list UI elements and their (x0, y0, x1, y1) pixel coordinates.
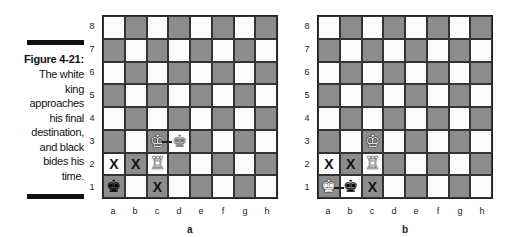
square-f7 (212, 39, 234, 62)
square-a8 (103, 16, 125, 39)
square-f4 (427, 107, 449, 130)
square-e1 (405, 175, 427, 198)
file-label: f (427, 206, 449, 216)
square-g6 (449, 62, 471, 85)
square-f6 (427, 62, 449, 85)
caption-top-rule (27, 40, 84, 45)
rank-label: 3 (87, 136, 97, 146)
square-g4 (449, 107, 471, 130)
file-label: c (361, 206, 383, 216)
x-mark-icon: X (368, 179, 377, 195)
square-a4 (318, 107, 340, 130)
rank-label: 1 (302, 182, 312, 192)
square-f3 (212, 130, 234, 153)
square-b5 (340, 84, 362, 107)
rank-label: 2 (302, 159, 312, 169)
caption-line: and black (40, 140, 84, 155)
square-g4 (234, 107, 256, 130)
rank-label: 1 (87, 182, 97, 192)
square-c2: ♖ (362, 153, 384, 176)
file-label: b (339, 206, 361, 216)
square-d7 (383, 39, 405, 62)
square-g1 (234, 175, 256, 198)
square-g3 (449, 130, 471, 153)
square-f2 (427, 153, 449, 176)
square-e5 (405, 84, 427, 107)
rank-label: 5 (302, 90, 312, 100)
square-g2 (234, 153, 256, 176)
square-h7 (255, 39, 277, 62)
square-b4 (125, 107, 147, 130)
square-a2: X (318, 153, 340, 176)
square-e4 (405, 107, 427, 130)
caption-line: king (65, 82, 84, 97)
square-h4 (470, 107, 492, 130)
square-c8 (147, 16, 169, 39)
black-king-icon: ♚ (343, 178, 358, 195)
square-c4 (147, 107, 169, 130)
ghost-king-icon: ♚ (172, 133, 187, 150)
x-mark-icon: X (324, 156, 333, 172)
square-e4 (190, 107, 212, 130)
square-g8 (449, 16, 471, 39)
x-mark-icon: X (109, 156, 118, 172)
square-b3 (340, 130, 362, 153)
rank-label: 8 (87, 21, 97, 31)
square-h5 (470, 84, 492, 107)
square-h7 (470, 39, 492, 62)
square-a5 (318, 84, 340, 107)
file-label: g (234, 206, 256, 216)
square-a1: ♚ (318, 175, 340, 198)
square-d1 (383, 175, 405, 198)
square-f1 (427, 175, 449, 198)
square-h1 (255, 175, 277, 198)
square-h3 (255, 130, 277, 153)
square-h2 (470, 153, 492, 176)
rank-label: 7 (87, 44, 97, 54)
white-rook-icon: ♖ (150, 155, 165, 172)
square-g1 (449, 175, 471, 198)
rank-label: 4 (87, 113, 97, 123)
file-label: a (102, 206, 124, 216)
x-mark-icon: X (153, 179, 162, 195)
white-rook-icon: ♖ (365, 155, 380, 172)
square-a6 (103, 62, 125, 85)
square-h5 (255, 84, 277, 107)
file-label: a (317, 206, 339, 216)
file-label: f (212, 206, 234, 216)
square-f5 (427, 84, 449, 107)
file-label: e (405, 206, 427, 216)
square-b6 (125, 62, 147, 85)
square-a6 (318, 62, 340, 85)
square-a8 (318, 16, 340, 39)
caption-line: approaches (30, 96, 85, 111)
square-f1 (212, 175, 234, 198)
square-b7 (340, 39, 362, 62)
square-a3 (318, 130, 340, 153)
file-label: h (256, 206, 278, 216)
square-c3: ♔ (362, 130, 384, 153)
rank-label: 7 (302, 44, 312, 54)
rank-label: 4 (302, 113, 312, 123)
square-g8 (234, 16, 256, 39)
file-label: g (449, 206, 471, 216)
square-c8 (362, 16, 384, 39)
square-f2 (212, 153, 234, 176)
square-g6 (234, 62, 256, 85)
move-arrow-icon (334, 187, 344, 189)
square-c1: X (147, 175, 169, 198)
square-b5 (125, 84, 147, 107)
square-e6 (190, 62, 212, 85)
square-g2 (449, 153, 471, 176)
caption-line: his final (49, 111, 84, 126)
chessboard: ♔XX♖♚♚X (317, 15, 493, 199)
square-c5 (147, 84, 169, 107)
square-b4 (340, 107, 362, 130)
square-b2: X (340, 153, 362, 176)
square-f6 (212, 62, 234, 85)
square-d4 (383, 107, 405, 130)
square-c7 (147, 39, 169, 62)
square-e7 (405, 39, 427, 62)
square-h6 (255, 62, 277, 85)
square-f5 (212, 84, 234, 107)
